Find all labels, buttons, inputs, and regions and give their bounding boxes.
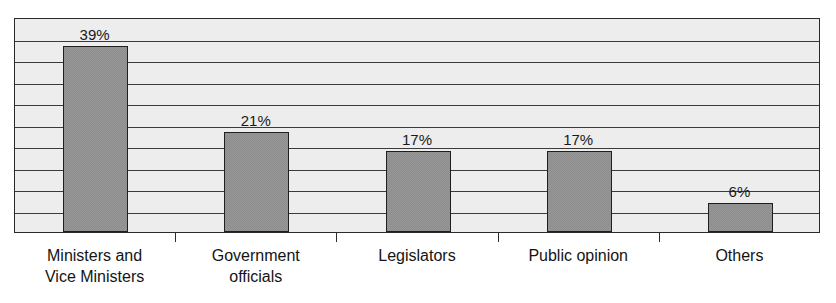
x-axis-category-labels: Ministers and Vice MinistersGovernment o… bbox=[0, 245, 836, 303]
bar bbox=[386, 151, 451, 232]
bar-value-label: 17% bbox=[563, 131, 593, 148]
bar-value-label: 17% bbox=[402, 131, 432, 148]
bars-layer bbox=[15, 19, 819, 232]
bar bbox=[224, 132, 289, 232]
bar bbox=[708, 203, 773, 232]
category-label: Others bbox=[715, 245, 763, 266]
plot-area bbox=[14, 18, 820, 233]
bar-value-label: 39% bbox=[80, 26, 110, 43]
category-label: Public opinion bbox=[528, 245, 628, 266]
bar bbox=[547, 151, 612, 232]
bar-chart: Ministers and Vice MinistersGovernment o… bbox=[0, 0, 836, 303]
category-label: Ministers and Vice Ministers bbox=[45, 245, 144, 287]
axis-tick bbox=[659, 233, 660, 242]
category-label: Government officials bbox=[212, 245, 300, 287]
bar-value-label: 6% bbox=[729, 183, 751, 200]
axis-tick bbox=[336, 233, 337, 242]
bar bbox=[63, 46, 128, 232]
axis-tick bbox=[498, 233, 499, 242]
bar-value-label: 21% bbox=[241, 112, 271, 129]
category-label: Legislators bbox=[378, 245, 455, 266]
axis-tick bbox=[175, 233, 176, 242]
x-axis-ticks bbox=[14, 233, 820, 243]
